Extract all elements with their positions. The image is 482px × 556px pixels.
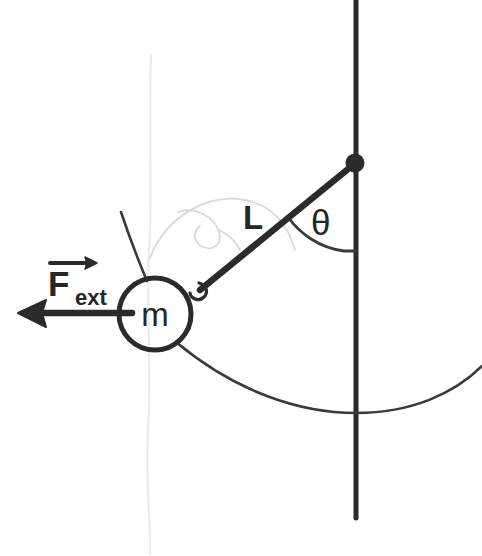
length-label-L: L — [243, 199, 263, 236]
alternate-string-stroke — [121, 212, 147, 281]
swing-path-arc — [176, 342, 482, 413]
force-arrow-head — [18, 300, 46, 327]
erased-pencil-marks-group — [147, 55, 295, 554]
pendulum-diagram-canvas: F ext L θ m — [0, 0, 482, 556]
force-label-F: F — [48, 264, 69, 303]
force-label-subscript-ext: ext — [75, 285, 107, 310]
angle-label-theta: θ — [311, 203, 330, 242]
pendulum-diagram: F ext L θ m — [0, 0, 482, 556]
erased-swirl-mark — [178, 210, 220, 248]
force-label-group: F ext — [48, 257, 107, 310]
pivot-point-dot — [346, 154, 365, 173]
erased-swirl-tail — [219, 230, 240, 250]
mass-label-m: m — [141, 296, 169, 333]
